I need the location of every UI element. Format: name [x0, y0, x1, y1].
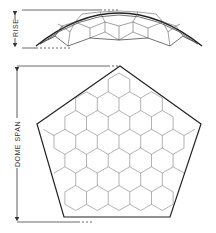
- rise-label: RISE: [12, 19, 19, 37]
- dome-span-label: DOME SPAN: [14, 121, 21, 167]
- elevation-view: RISE: [11, 10, 202, 48]
- elevation-facets: [48, 11, 190, 46]
- plan-lattice: [43, 73, 195, 211]
- plan-view: DOME SPAN: [13, 66, 201, 222]
- geodesic-dome-diagram: RISE: [0, 0, 216, 233]
- lattice-struts: [43, 73, 195, 211]
